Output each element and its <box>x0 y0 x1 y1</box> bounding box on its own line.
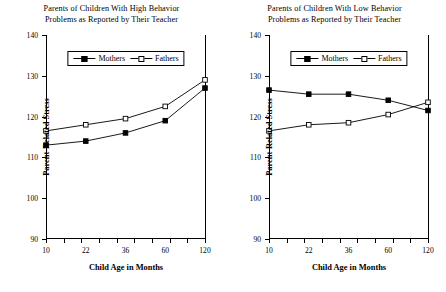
legend-label-mothers: Mothers <box>321 54 348 63</box>
data-point-marker <box>83 122 88 127</box>
chart-panel-high-behavior: Parents of Children With High Behavior P… <box>0 0 223 292</box>
y-tick-label: 130 <box>27 71 38 80</box>
legend-marker-filled-square-icon <box>296 54 318 63</box>
legend-marker-open-square-icon <box>130 54 152 63</box>
data-point-marker <box>163 118 168 123</box>
panel-title-line-2: Problems as Reported by Their Teacher <box>0 14 223 25</box>
legend-label-fathers: Fathers <box>155 54 179 63</box>
x-tick-mark <box>304 239 305 243</box>
data-point-marker <box>386 112 391 117</box>
two-panel-line-chart-figure: Parents of Children With High Behavior P… <box>0 0 446 292</box>
x-tick-mark <box>410 239 411 243</box>
legend-entry-fathers: Fathers <box>353 54 402 63</box>
x-tick-mark <box>205 239 206 243</box>
data-point-marker <box>306 92 311 97</box>
x-tick-label: 36 <box>122 246 130 255</box>
data-point-marker <box>267 88 272 93</box>
x-tick-mark <box>64 239 65 243</box>
x-tick-label: 22 <box>305 246 313 255</box>
data-point-marker <box>386 98 391 103</box>
y-tick-label: 110 <box>27 153 38 162</box>
series-line-fathers <box>46 80 205 131</box>
x-tick-mark <box>287 239 288 243</box>
y-tick-label: 100 <box>27 194 38 203</box>
data-point-marker <box>306 122 311 127</box>
data-point-marker <box>83 139 88 144</box>
panel-title-line-1: Parents of Children With Low Behavior <box>223 3 446 14</box>
y-tick-label: 130 <box>250 71 261 80</box>
data-point-marker <box>123 116 128 121</box>
plot-area-high: 90100110120130140 10223660120 Child Age … <box>46 35 206 239</box>
x-tick-mark <box>134 239 135 243</box>
data-point-marker <box>163 104 168 109</box>
y-tick-label: 120 <box>250 112 261 121</box>
y-tick-label: 90 <box>30 235 38 244</box>
legend-label-fathers: Fathers <box>378 54 402 63</box>
x-tick-mark <box>46 239 47 243</box>
legend-marker-open-square-icon <box>353 54 375 63</box>
legend-high: Mothers Fathers <box>67 51 184 66</box>
x-tick-mark <box>170 239 171 243</box>
chart-panel-low-behavior: Parents of Children With Low Behavior Pr… <box>223 0 446 292</box>
x-tick-label: 120 <box>199 246 210 255</box>
data-point-marker <box>203 86 208 91</box>
legend-entry-mothers: Mothers <box>73 54 125 63</box>
x-axis-title-high: Child Age in Months <box>46 263 206 272</box>
y-tick-label: 90 <box>253 235 261 244</box>
y-tick-label: 100 <box>250 194 261 203</box>
panel-title-high: Parents of Children With High Behavior P… <box>0 3 223 25</box>
x-tick-mark <box>81 239 82 243</box>
x-tick-label: 60 <box>384 246 392 255</box>
x-tick-mark <box>375 239 376 243</box>
x-tick-mark <box>340 239 341 243</box>
y-axis-title-high: Parent-Related Stress <box>42 98 51 176</box>
y-tick-label: 140 <box>250 31 261 40</box>
x-tick-label: 22 <box>82 246 90 255</box>
y-tick-label: 110 <box>250 153 261 162</box>
x-tick-label: 60 <box>161 246 169 255</box>
panel-title-line-2: Problems as Reported by Their Teacher <box>223 14 446 25</box>
x-tick-mark <box>322 239 323 243</box>
y-axis-title-low: Parent-Related Stress <box>265 98 274 176</box>
y-tick-label: 120 <box>27 112 38 121</box>
legend-entry-mothers: Mothers <box>296 54 348 63</box>
series-line-fathers <box>269 102 428 131</box>
y-tick-label: 140 <box>27 31 38 40</box>
data-point-marker <box>426 100 431 105</box>
data-point-marker <box>203 78 208 83</box>
x-tick-mark <box>393 239 394 243</box>
legend-label-mothers: Mothers <box>98 54 125 63</box>
plot-area-low: 90100110120130140 10223660120 Child Age … <box>269 35 429 239</box>
x-tick-mark <box>152 239 153 243</box>
x-tick-label: 120 <box>422 246 433 255</box>
x-axis-title-low: Child Age in Months <box>269 263 429 272</box>
panel-title-line-1: Parents of Children With High Behavior <box>0 3 223 14</box>
x-tick-label: 36 <box>345 246 353 255</box>
legend-marker-filled-square-icon <box>73 54 95 63</box>
data-point-marker <box>426 108 431 113</box>
legend-entry-fathers: Fathers <box>130 54 179 63</box>
x-tick-mark <box>117 239 118 243</box>
data-point-marker <box>123 131 128 136</box>
x-tick-label: 10 <box>42 246 50 255</box>
x-tick-mark <box>428 239 429 243</box>
x-tick-mark <box>187 239 188 243</box>
data-point-marker <box>346 120 351 125</box>
x-tick-mark <box>269 239 270 243</box>
panel-title-low: Parents of Children With Low Behavior Pr… <box>223 3 446 25</box>
data-point-marker <box>346 92 351 97</box>
legend-low: Mothers Fathers <box>290 51 407 66</box>
x-tick-mark <box>99 239 100 243</box>
x-tick-mark <box>357 239 358 243</box>
x-tick-label: 10 <box>265 246 273 255</box>
